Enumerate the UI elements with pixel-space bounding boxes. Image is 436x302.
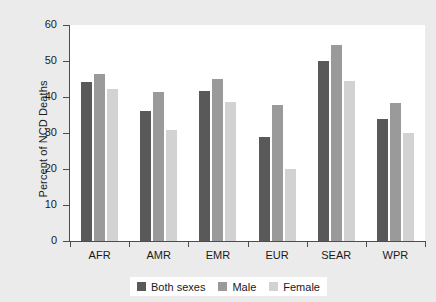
- bar-eur-female: [285, 169, 296, 241]
- x-tick-label-sear: SEAR: [321, 249, 351, 261]
- legend-label: Both sexes: [151, 281, 205, 293]
- x-tick-label-afr: AFR: [89, 249, 111, 261]
- bar-amr-male: [153, 92, 164, 241]
- x-tick-mark: [425, 242, 426, 247]
- bar-series-layer: [70, 25, 425, 241]
- bar-wpr-both-sexes: [377, 119, 388, 241]
- x-tick-mark: [129, 242, 130, 247]
- legend-swatch-icon: [269, 282, 278, 291]
- y-tick-mark: [63, 61, 69, 62]
- bar-amr-both-sexes: [140, 111, 151, 241]
- x-tick-mark: [366, 242, 367, 247]
- bar-afr-both-sexes: [81, 82, 92, 241]
- y-tick-label: 60: [45, 18, 57, 30]
- chart-figure: Percent of NCD Deaths 0102030405060 AFRA…: [0, 0, 436, 302]
- y-tick-mark: [63, 241, 69, 242]
- legend-swatch-icon: [137, 282, 146, 291]
- y-tick-label: 40: [45, 90, 57, 102]
- bar-eur-both-sexes: [259, 137, 270, 241]
- y-tick-label: 10: [45, 198, 57, 210]
- legend-label: Female: [283, 281, 320, 293]
- y-tick-mark: [63, 133, 69, 134]
- bar-sear-female: [344, 81, 355, 241]
- bar-eur-male: [272, 105, 283, 241]
- bar-emr-both-sexes: [199, 91, 210, 241]
- bar-emr-male: [212, 79, 223, 241]
- x-tick-label-amr: AMR: [147, 249, 171, 261]
- y-tick-mark: [63, 25, 69, 26]
- x-tick-label-wpr: WPR: [383, 249, 409, 261]
- legend-swatch-icon: [218, 282, 227, 291]
- chart-legend: Both sexesMaleFemale: [130, 277, 327, 296]
- y-tick-mark: [63, 97, 69, 98]
- x-tick-label-eur: EUR: [265, 249, 288, 261]
- bar-sear-both-sexes: [318, 61, 329, 241]
- x-tick-mark: [188, 242, 189, 247]
- bar-amr-female: [166, 130, 177, 241]
- y-tick-label: 50: [45, 54, 57, 66]
- x-tick-label-emr: EMR: [206, 249, 230, 261]
- y-tick-label: 30: [45, 126, 57, 138]
- bar-afr-female: [107, 89, 118, 241]
- legend-entry-female: Female: [269, 281, 320, 293]
- y-tick-label: 0: [51, 234, 57, 246]
- legend-label: Male: [232, 281, 256, 293]
- y-tick-mark: [63, 169, 69, 170]
- bar-emr-female: [225, 102, 236, 241]
- y-tick-mark: [63, 205, 69, 206]
- y-tick-label: 20: [45, 162, 57, 174]
- x-tick-mark: [307, 242, 308, 247]
- bar-wpr-male: [390, 103, 401, 241]
- legend-entry-male: Male: [218, 281, 256, 293]
- x-tick-mark: [248, 242, 249, 247]
- bar-sear-male: [331, 45, 342, 241]
- legend-entry-both-sexes: Both sexes: [137, 281, 205, 293]
- bar-afr-male: [94, 74, 105, 241]
- x-tick-mark: [70, 242, 71, 247]
- bar-wpr-female: [403, 133, 414, 241]
